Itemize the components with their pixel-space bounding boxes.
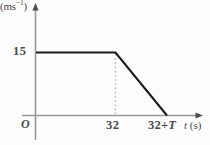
y-axis-unit-label: (ms−1): [0, 1, 27, 12]
y-axis-arrowhead: [32, 3, 38, 11]
x-axis-tick-label-32: 32: [106, 119, 120, 132]
origin-label: O: [21, 118, 30, 130]
x-axis-arrowhead: [196, 112, 204, 118]
velocity-curve: [36, 53, 167, 116]
x-axis-name-label: t (s): [184, 120, 201, 131]
velocity-time-graph-figure: (ms−1) 15 O 32 32+T t (s): [0, 0, 210, 145]
graph-canvas: [0, 0, 210, 145]
x-axis-tick-label-32-plus-T: 32+T: [148, 119, 176, 132]
y-axis-tick-label-15: 15: [13, 45, 27, 58]
